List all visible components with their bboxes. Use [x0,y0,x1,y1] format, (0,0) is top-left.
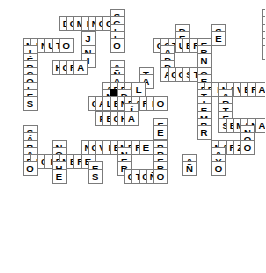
crossword-letter-cell[interactable]: E [52,169,67,184]
crossword-letter-cell[interactable]: O [153,169,168,184]
crossword-letter-cell[interactable]: E [139,140,154,155]
crossword-letter-cell[interactable]: O [110,38,125,53]
crossword-letter-cell[interactable]: L [131,82,146,97]
crossword-letter-cell[interactable]: J [81,31,96,46]
crossword-letter-cell[interactable]: S [23,96,38,111]
crossword-letter-cell[interactable]: Ñ [182,161,197,176]
crossword-letter-cell[interactable]: O [59,38,74,53]
crossword-letter-cell[interactable]: E [153,125,168,140]
crossword-grid: SIJULIODOMINGOGNUULDSVENJLEEIERNESEMINUT… [0,0,265,273]
crossword-letter-cell[interactable]: A [124,111,139,126]
crossword-letter-cell[interactable]: O [23,161,38,176]
crossword-letter-cell[interactable]: R [197,125,212,140]
crossword-letter-cell[interactable]: N [197,53,212,68]
crossword-letter-cell[interactable]: A [255,82,266,97]
crossword-letter-cell[interactable]: A [255,118,266,133]
crossword-letter-cell[interactable]: S [88,169,103,184]
crossword-letter-cell[interactable]: A [73,60,88,75]
crossword-letter-cell[interactable]: O [211,161,226,176]
crossword-letter-cell[interactable]: E [211,31,226,46]
crossword-letter-cell[interactable]: S [262,45,265,60]
crossword-letter-cell[interactable]: O [153,96,168,111]
crossword-letter-cell[interactable]: O [240,140,255,155]
